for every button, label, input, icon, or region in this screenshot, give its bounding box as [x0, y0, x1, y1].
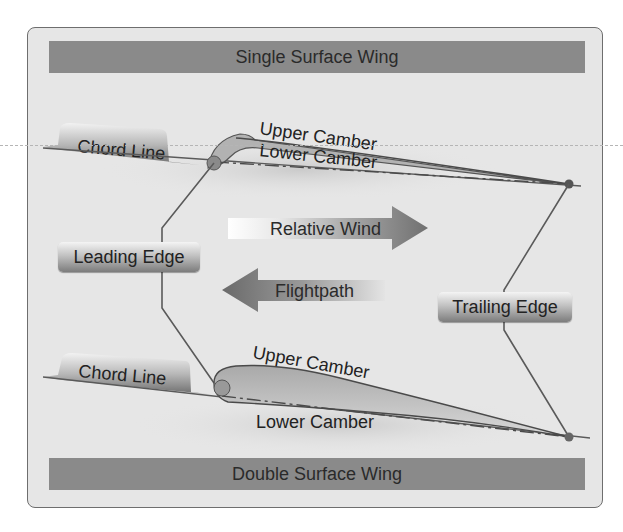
lower-camber-label-bottom: Lower Camber [256, 412, 374, 432]
scan-artifact-line [0, 145, 623, 146]
trailing-edge-point-bottom [565, 433, 574, 442]
leading-edge-label: Leading Edge [58, 242, 200, 272]
flightpath-arrow: Flightpath [222, 268, 385, 312]
double-surface-wing: Chord Line Upper Camber Lower Camber [43, 342, 590, 455]
relative-wind-label: Relative Wind [270, 219, 381, 239]
relative-wind-arrow: Relative Wind [228, 206, 428, 250]
flightpath-label: Flightpath [275, 281, 354, 301]
trailing-edge-label: Trailing Edge [438, 292, 572, 322]
single-surface-wing: Chord Line Upper Camber Lower Camber [43, 118, 581, 200]
leading-edge-point-bottom [214, 380, 230, 396]
